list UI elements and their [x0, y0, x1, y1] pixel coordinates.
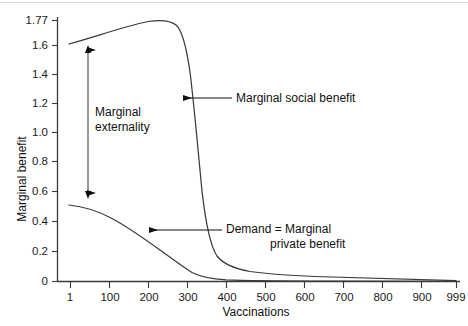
x-tick-label-600: 600: [295, 291, 314, 303]
x-tick-label-200: 200: [139, 291, 158, 303]
annotation-marginal-externality-line1: Marginal: [95, 105, 141, 119]
marginal-externality-arrow: [85, 45, 91, 199]
x-tick-label-999: 999: [446, 291, 465, 303]
y-tick-label-1-4: 1.4: [0, 68, 48, 80]
annotation-demand-line2: private benefit: [226, 237, 345, 252]
x-tick-label-300: 300: [178, 291, 197, 303]
x-tick-label-900: 900: [412, 291, 431, 303]
x-tick-label-800: 800: [373, 291, 392, 303]
annotation-marginal-externality-line2: externality: [95, 120, 150, 134]
x-tick-label-700: 700: [334, 291, 353, 303]
x-tick-label-500: 500: [256, 291, 275, 303]
x-axis: [58, 282, 461, 289]
annotation-marginal-social-benefit: Marginal social benefit: [236, 91, 355, 106]
x-tick-label-100: 100: [100, 291, 119, 303]
y-axis: [52, 17, 58, 282]
annotation-demand-line1: Demand = Marginal: [226, 222, 331, 236]
annotation-marginal-externality: Marginal externality: [95, 105, 150, 135]
x-axis-title: Vaccinations: [222, 305, 289, 319]
x-tick-label-400: 400: [217, 291, 236, 303]
y-tick-label-1-6: 1.6: [0, 39, 48, 51]
x-tick-label-1: 1: [67, 291, 73, 303]
y-tick-label-0-2: 0.2: [0, 245, 48, 257]
y-tick-label-1-77: 1.77: [0, 14, 48, 26]
annotation-demand: Demand = Marginal private benefit: [226, 222, 345, 252]
plot-canvas: [0, 0, 468, 326]
y-tick-label-0: 0: [0, 275, 48, 287]
y-axis-title: Marginal benefit: [15, 124, 29, 234]
y-tick-label-1-2: 1.2: [0, 97, 48, 109]
chart-figure: 1.77 1.6 1.4 1.2 1.0 0.8 0.6 0.4 0.2 0 1…: [0, 0, 468, 326]
